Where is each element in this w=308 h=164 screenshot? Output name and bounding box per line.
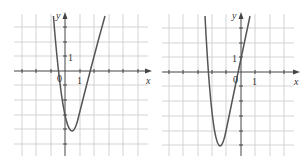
x-axis-label: x (293, 76, 299, 87)
axes (14, 16, 148, 156)
x-axis-label: x (145, 75, 151, 86)
x-tick-label: 1 (77, 75, 82, 86)
x-axis-arrow-icon (145, 69, 152, 74)
y-tick-label: 1 (232, 53, 237, 64)
origin-label: 0 (57, 73, 62, 84)
y-axis-arrow-icon (63, 12, 68, 19)
x-axis-arrow-icon (293, 70, 300, 75)
x-tick-label: 1 (252, 76, 257, 87)
y-axis-label: y (55, 10, 61, 21)
graph-right-canvas: y x 0 1 1 (154, 0, 308, 164)
y-axis-label: y (231, 10, 237, 21)
graph-left: y x 0 1 1 (0, 0, 154, 164)
y-tick-label: 1 (68, 52, 73, 63)
origin-label: 0 (233, 74, 238, 85)
graph-right: y x 0 1 1 (154, 0, 308, 164)
graph-left-canvas: y x 0 1 1 (0, 0, 154, 164)
grid-lines (162, 14, 294, 156)
y-axis-arrow-icon (239, 12, 244, 19)
